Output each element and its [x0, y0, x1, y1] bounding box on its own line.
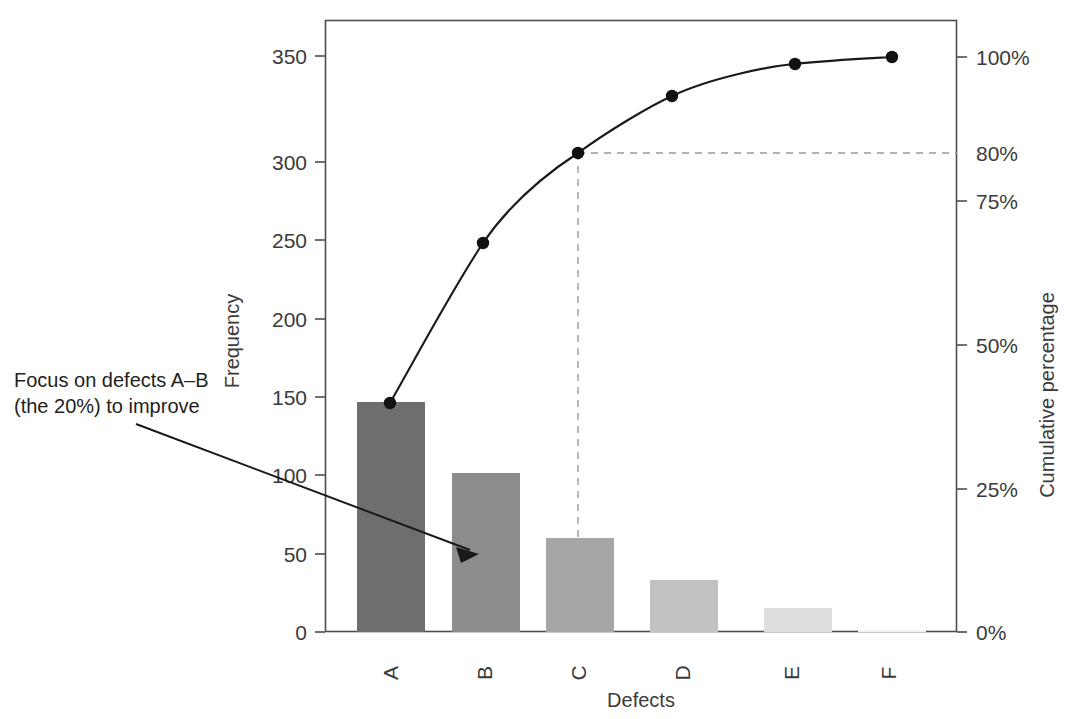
x-tick-label-D: D: [671, 665, 694, 680]
cumulative-point-A: [384, 397, 396, 409]
x-tick-label-F: F: [877, 667, 900, 680]
x-tick-label-E: E: [780, 666, 803, 680]
bar-D: [650, 580, 718, 632]
cumulative-point-C: [572, 147, 584, 159]
x-tick-label-A: A: [379, 666, 402, 680]
y-tick-label-100: 100: [272, 464, 307, 487]
x-tick-label-B: B: [473, 666, 496, 680]
y2-axis-ticks: [957, 57, 967, 632]
pareto-chart: 0 50 100 150 200 250 300 350 0% 25% 50% …: [0, 0, 1073, 719]
x-axis-title: Defects: [607, 689, 675, 711]
y2-tick-label-75: 75%: [976, 190, 1018, 213]
y-tick-label-250: 250: [272, 229, 307, 252]
y2-tick-label-80: 80%: [976, 142, 1018, 165]
y-tick-label-350: 350: [272, 45, 307, 68]
y2-tick-label-50: 50%: [976, 334, 1018, 357]
focus-annotation-line-1: Focus on defects A–B: [14, 369, 209, 391]
x-tick-label-C: C: [567, 665, 590, 680]
y-axis-ticks: [315, 56, 325, 632]
y-tick-label-50: 50: [284, 543, 307, 566]
y2-tick-label-0: 0%: [976, 621, 1006, 644]
y-axis-tick-labels: 0 50 100 150 200 250 300 350: [272, 45, 307, 644]
bar-C: [546, 538, 614, 632]
chart-canvas: 0 50 100 150 200 250 300 350 0% 25% 50% …: [0, 0, 1073, 719]
y-tick-label-150: 150: [272, 386, 307, 409]
focus-annotation-line-2: (the 20%) to improve: [14, 395, 200, 417]
cumulative-point-E: [789, 58, 801, 70]
y2-axis-title: Cumulative percentage: [1036, 292, 1058, 498]
y2-tick-label-25: 25%: [976, 478, 1018, 501]
cumulative-point-D: [666, 90, 678, 102]
y-axis-title: Frequency: [221, 294, 243, 389]
bar-A: [357, 402, 425, 632]
cumulative-point-B: [477, 237, 489, 249]
bar-E: [764, 608, 832, 632]
y2-axis-tick-labels: 0% 25% 50% 75% 100% 80%: [976, 46, 1030, 644]
y-tick-label-300: 300: [272, 151, 307, 174]
y-tick-label-200: 200: [272, 308, 307, 331]
y-tick-label-0: 0: [295, 621, 307, 644]
x-axis-category-labels: A B C D E F: [379, 665, 900, 680]
y2-tick-label-100: 100%: [976, 46, 1030, 69]
bar-F: [858, 630, 926, 632]
cumulative-point-F: [886, 51, 898, 63]
